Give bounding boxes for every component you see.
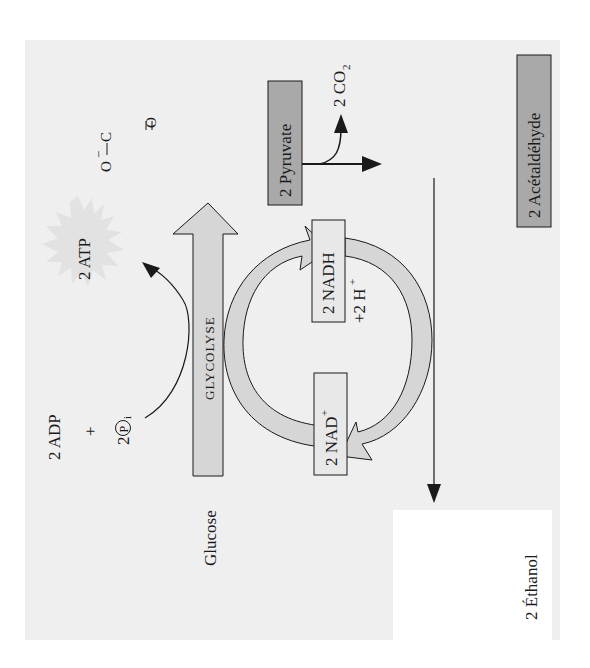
svg-text:−: −	[91, 151, 106, 158]
co2-label: 2 CO 2	[330, 65, 352, 108]
acetaldehyde-label: 2 Acétaldéhyde	[525, 113, 544, 218]
svg-text:2 NAD: 2 NAD	[322, 416, 341, 466]
svg-text:2 CO: 2 CO	[330, 71, 349, 107]
adp-label: 2 ADP	[45, 414, 64, 460]
svg-text:+: +	[318, 410, 330, 416]
plus-sign: +	[81, 426, 100, 436]
svg-text:+: +	[346, 279, 358, 285]
svg-text:O: O	[143, 117, 159, 128]
svg-text:C: C	[98, 132, 114, 142]
atp-label: 2 ATP	[75, 238, 94, 280]
svg-text:i: i	[121, 416, 133, 419]
svg-text:2: 2	[340, 65, 352, 71]
pyruvate-label: 2 Pyruvate	[276, 124, 295, 197]
glucose-label: Glucose	[201, 510, 220, 566]
fermentation-diagram: Glucose Glycolyse 2 ADP + 2 P i 2 ATP 2 …	[0, 0, 590, 668]
svg-text:2: 2	[114, 437, 133, 446]
nad-label: 2 NAD +	[318, 410, 341, 466]
ethanol-label: 2 Éthanol	[522, 554, 541, 620]
glycolysis-label: Glycolyse	[202, 316, 217, 400]
svg-text:+2 H: +2 H	[350, 288, 369, 323]
svg-text:P: P	[117, 426, 131, 433]
svg-text:O: O	[98, 161, 114, 172]
nadh-label: 2 NADH	[319, 252, 338, 314]
